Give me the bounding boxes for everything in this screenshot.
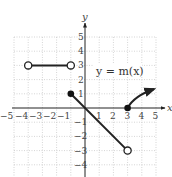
svg-text:−2: −2 — [43, 111, 56, 121]
y-axis-label: y — [81, 11, 88, 22]
segment-1 — [25, 62, 75, 69]
svg-text:−3: −3 — [29, 111, 43, 121]
svg-text:−4: −4 — [74, 160, 88, 170]
open-endpoint — [67, 62, 74, 69]
open-endpoint — [124, 147, 131, 154]
svg-text:1: 1 — [78, 89, 84, 99]
closed-endpoint — [68, 91, 75, 98]
svg-text:−3: −3 — [74, 146, 88, 156]
svg-text:−1: −1 — [57, 111, 70, 121]
svg-text:−5: −5 — [0, 111, 14, 121]
svg-text:4: 4 — [78, 46, 84, 56]
svg-text:−2: −2 — [74, 131, 87, 141]
open-endpoint — [25, 62, 32, 69]
svg-text:5: 5 — [153, 111, 159, 121]
svg-text:4: 4 — [139, 111, 145, 121]
x-axis-label: x — [167, 102, 172, 113]
closed-endpoint — [124, 105, 131, 112]
svg-text:5: 5 — [78, 32, 84, 42]
y-tick-labels: 5 4 3 2 1 −1 −2 −3 −4 — [74, 32, 88, 170]
svg-text:2: 2 — [110, 111, 116, 121]
svg-text:−4: −4 — [15, 111, 29, 121]
svg-text:2: 2 — [78, 75, 84, 85]
svg-text:3: 3 — [125, 111, 131, 121]
function-graph: x y −5 −4 −3 −2 −1 1 2 3 4 5 5 4 3 2 1 −… — [0, 0, 172, 177]
function-label: y = m(x) — [95, 65, 144, 78]
svg-text:−1: −1 — [74, 117, 87, 127]
svg-text:3: 3 — [78, 60, 84, 70]
